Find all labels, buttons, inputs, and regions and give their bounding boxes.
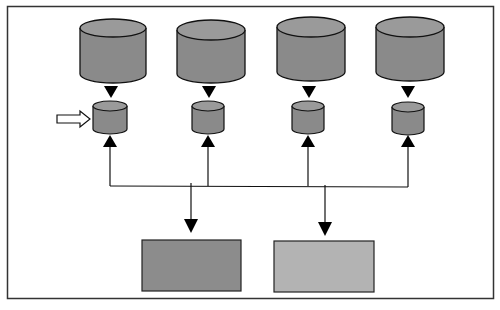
large-database-4 xyxy=(376,17,444,81)
small-database-2 xyxy=(192,101,224,134)
small-database-4 xyxy=(392,102,424,135)
small-database-1 xyxy=(93,101,127,134)
large-database-1 xyxy=(80,19,146,83)
output-box-light xyxy=(274,241,374,292)
small-database-3 xyxy=(292,101,324,134)
large-database-2 xyxy=(177,20,245,83)
output-box-dark xyxy=(142,240,241,291)
diagram-canvas xyxy=(0,0,500,310)
large-database-3 xyxy=(277,17,345,81)
